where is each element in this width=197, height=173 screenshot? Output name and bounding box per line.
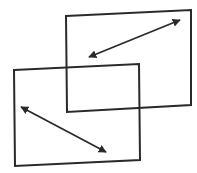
overlapping-frames-diagram	[0, 0, 197, 173]
back-frame	[66, 10, 191, 112]
front-frame	[14, 64, 140, 166]
back-double-arrow	[89, 20, 180, 57]
front-double-arrow	[21, 107, 106, 152]
